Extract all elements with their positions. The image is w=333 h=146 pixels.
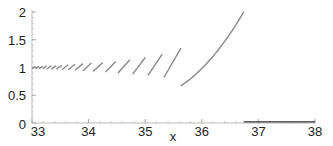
series-line-branch-12	[93, 63, 103, 72]
series-line-branch-13	[106, 61, 116, 72]
series-line-branch-hatch-4	[43, 66, 47, 69]
series-line-branch-hatch-10	[75, 64, 83, 71]
series-line-branch-15	[133, 58, 146, 75]
plot-area	[32, 12, 315, 122]
x-tick-label: 37	[251, 124, 265, 139]
x-tick-label: 34	[81, 124, 95, 139]
series-line-branch-hatch-3	[39, 66, 43, 68]
x-axis-label: x	[170, 129, 177, 144]
x-tick-label: 38	[308, 124, 322, 139]
series-line-branch-hatch-11	[83, 63, 92, 71]
y-tick-label: 1	[19, 61, 26, 76]
series-line-branch-hatch-8	[62, 65, 68, 70]
series-line-branch-17	[164, 48, 181, 77]
x-tick-label: 36	[195, 124, 209, 139]
series-line-branch-16	[148, 54, 162, 75]
x-tick-label: 35	[138, 124, 152, 139]
y-tick-label: 1.5	[8, 33, 26, 48]
x-tick-label: 33	[31, 124, 45, 139]
series-line-branch-hatch-1	[32, 66, 35, 68]
series-line-branch-hatch-5	[47, 66, 52, 69]
chart: 33343536373800.511.52 x	[0, 0, 333, 146]
axes	[32, 10, 315, 123]
y-tick-label: 2	[19, 5, 26, 20]
series-line-branch-hatch-2	[35, 66, 38, 68]
ticks: 33343536373800.511.52	[8, 5, 322, 139]
series-line-branch-hatch-7	[56, 65, 62, 69]
series-line-branch-hatch-6	[51, 66, 56, 69]
series-line-branch-18	[181, 12, 244, 86]
y-tick-label: 0.5	[8, 88, 26, 103]
y-tick-label: 0	[19, 117, 26, 132]
series-line-branch-14	[118, 60, 130, 73]
series-line-branch-hatch-9	[68, 64, 75, 70]
